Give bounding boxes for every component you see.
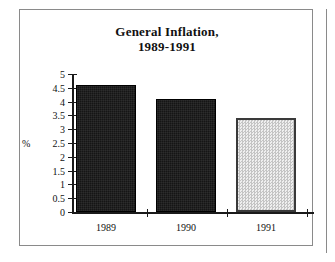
y-axis-tick (68, 212, 77, 213)
x-axis-tick (147, 209, 148, 217)
x-axis-tick (307, 209, 308, 217)
x-axis-category-label: 1990 (156, 222, 216, 233)
y-axis-tick-label: 2 (21, 153, 65, 163)
y-axis-tick-label: 5 (21, 70, 65, 80)
x-axis-tick (227, 209, 228, 217)
x-axis-category-label: 1991 (236, 222, 296, 233)
y-axis-tick-label: 4.5 (21, 84, 65, 94)
y-axis-tick (68, 74, 77, 75)
bar-1990 (156, 99, 216, 212)
bar-1989 (76, 85, 136, 212)
x-axis-category-label: 1989 (76, 222, 136, 233)
chart-frame: General Inflation, 1989-1991 5 4.5 4 3.5… (19, 9, 313, 246)
bar-1991 (236, 118, 296, 212)
page-right-rule (326, 9, 327, 253)
y-axis-tick-label: 4 (21, 98, 65, 108)
chart-page: General Inflation, 1989-1991 5 4.5 4 3.5… (0, 0, 335, 262)
y-axis-tick-label: 3 (21, 125, 65, 135)
plot-area: 5 4.5 4 3.5 3 2.5 % 2 1.5 1 0.5 0 (20, 10, 314, 247)
y-axis-tick-label: 3.5 (21, 111, 65, 121)
y-axis-tick-label: 0 (21, 208, 65, 218)
y-axis-tick-label: 1 (21, 180, 65, 190)
y-axis-unit-label: % (22, 139, 66, 149)
y-axis-tick-label: 1.5 (21, 167, 65, 177)
x-axis-line (72, 212, 314, 214)
y-axis-tick-label: 0.5 (21, 194, 65, 204)
